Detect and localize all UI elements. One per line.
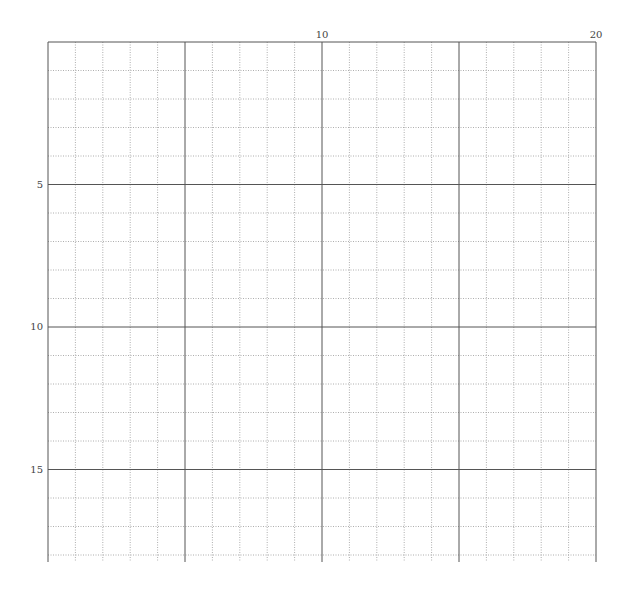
- left-label-10: 10: [30, 321, 43, 332]
- axis-labels: 10 20 5 10 15: [30, 29, 602, 475]
- top-label-10: 10: [316, 29, 329, 40]
- left-label-5: 5: [37, 179, 43, 190]
- grid-paper: 10 20 5 10 15: [0, 0, 630, 592]
- left-label-15: 15: [30, 464, 43, 475]
- top-label-20: 20: [590, 29, 603, 40]
